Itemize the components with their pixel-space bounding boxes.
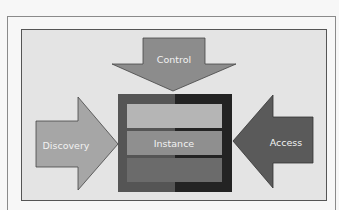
control-arrow (112, 38, 236, 91)
instance-layer-top (127, 104, 222, 128)
discovery-label: Discovery (43, 140, 90, 151)
instance-layer-bottom (127, 158, 222, 182)
diagram-canvas (0, 0, 339, 210)
access-label: Access (270, 137, 303, 148)
instance-label: Instance (154, 138, 194, 149)
control-label: Control (157, 54, 191, 65)
